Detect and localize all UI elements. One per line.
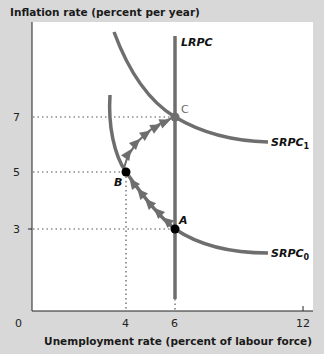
phillips-curve-chart: Inflation rate (percent per year) bbox=[0, 0, 324, 354]
point-c bbox=[171, 113, 180, 122]
x-tick-label-6: 6 bbox=[171, 317, 178, 330]
x-tick-label-4: 4 bbox=[122, 317, 129, 330]
plot-area bbox=[32, 22, 313, 311]
point-a-label: A bbox=[178, 214, 188, 227]
x-tick-label-0: 0 bbox=[15, 317, 22, 330]
point-b-label: B bbox=[114, 176, 122, 189]
x-tick-label-12: 12 bbox=[296, 317, 310, 330]
point-c-label: C bbox=[181, 103, 189, 116]
y-tick-label-5: 5 bbox=[13, 166, 20, 179]
lrpc-label: LRPC bbox=[181, 36, 213, 49]
y-tick-label-3: 3 bbox=[13, 223, 20, 236]
y-tick-label-7: 7 bbox=[13, 111, 20, 124]
point-b bbox=[122, 168, 131, 177]
x-axis-title: Unemployment rate (percent of labour for… bbox=[44, 335, 312, 347]
y-axis-title: Inflation rate (percent per year) bbox=[10, 6, 200, 18]
